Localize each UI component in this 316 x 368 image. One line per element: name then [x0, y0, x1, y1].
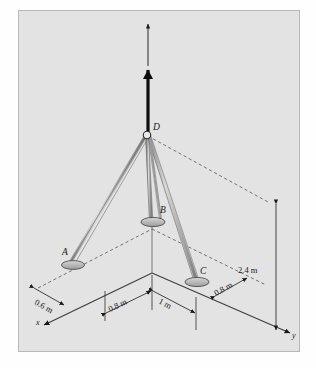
dimension-0-8m-right: 0.8 m [212, 278, 247, 298]
node-label-B: B [160, 205, 166, 215]
figure-page: 0.6 m 0.8 m 1 m 0.8 m 2.4 m A B C D [0, 0, 316, 368]
x-axis-line [44, 273, 152, 325]
member-DC-edge [147, 136, 193, 279]
dim-label-0-6m: 0.6 m [33, 297, 55, 315]
node-label-A: A [61, 247, 68, 257]
base-pad-B [141, 217, 165, 226]
joint-node-D [143, 131, 150, 138]
dimension-2-4m: 2.4 m [238, 204, 276, 330]
y-axis-line [152, 273, 290, 333]
member-DA-edge [70, 136, 146, 263]
dim-label-0-8m-left: 0.8 m [106, 296, 128, 314]
ground-edge-left-dashed [38, 229, 152, 288]
dimension-0-6m: 0.6 m [33, 288, 64, 315]
base-pad-C [185, 277, 209, 286]
axis-label-y: y [291, 331, 296, 340]
ground-edge-right-dashed [152, 229, 266, 285]
truss-members [70, 136, 199, 279]
axis-label-x: x [35, 318, 40, 327]
dim-label-0-8m-right: 0.8 m [212, 279, 234, 297]
base-pad-A [62, 261, 85, 270]
node-label-D: D [152, 122, 160, 132]
dim-label-2-4m: 2.4 m [238, 265, 258, 275]
member-DC [149, 136, 196, 279]
member-DA-edge2 [75, 137, 149, 264]
dimension-0-8m-left: 0.8 m [105, 275, 152, 321]
dim-label-1m: 1 m [157, 296, 173, 311]
node-label-C: C [200, 266, 207, 276]
truss-diagram: 0.6 m 0.8 m 1 m 0.8 m 2.4 m A B C D [0, 0, 316, 368]
dimension-1m: 1 m [153, 291, 196, 330]
